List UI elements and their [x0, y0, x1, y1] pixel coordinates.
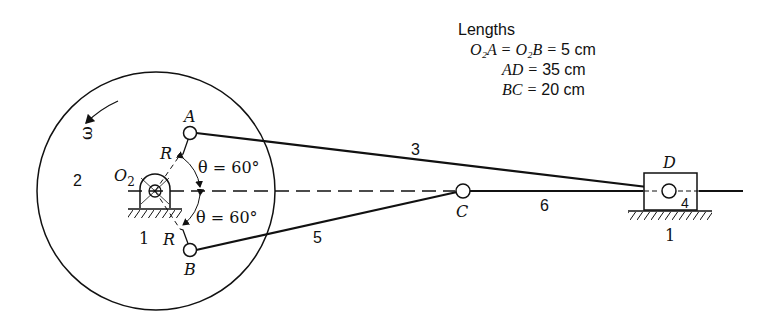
- pin-b: [184, 244, 197, 257]
- ground-right-label: 1: [665, 226, 675, 245]
- legend-row-unit: cm: [560, 61, 586, 78]
- legend-row-unit: cm: [570, 41, 596, 58]
- o2-label: O2: [114, 166, 135, 189]
- legend-row-value: 5: [561, 41, 570, 58]
- legend-row-unit: cm: [559, 81, 585, 98]
- pin-a: [184, 127, 197, 140]
- legend-row-ad: AD = 35 cm: [458, 60, 596, 80]
- lengths-legend: Lengths O₂A = O₂B = 5 cm AD = 35 cm BC =…: [458, 20, 596, 100]
- ground-left-label: 1: [139, 229, 149, 248]
- legend-row-lhs: BC =: [502, 81, 541, 98]
- legend-title: Lengths: [458, 20, 596, 40]
- legend-row-o2a: O₂A = O₂B = 5 cm: [458, 40, 596, 60]
- link-4-label: 4: [681, 195, 689, 211]
- legend-row-lhs: AD =: [502, 61, 542, 78]
- point-d-label: D: [662, 153, 676, 172]
- link-5-label: 5: [313, 229, 322, 246]
- legend-row-lhs: O₂A = O₂B =: [470, 41, 561, 58]
- point-b-label: B: [183, 260, 196, 279]
- legend-row-bc: BC = 20 cm: [458, 80, 596, 100]
- link-3: [196, 133, 664, 189]
- link-2-label: 2: [73, 172, 82, 189]
- mechanism-diagram: ω 2 O2 1 A B R R θ = 60° θ = 60° 3 5 6 C…: [0, 0, 776, 328]
- theta-top-label: θ = 60°: [198, 158, 260, 177]
- ground-pivot-o2: [128, 174, 182, 218]
- link-3-label: 3: [411, 141, 420, 158]
- omega-arrow-icon: [86, 101, 118, 123]
- omega-label: ω: [76, 126, 96, 140]
- legend-row-value: 20: [541, 81, 559, 98]
- r-bottom-label: R: [162, 230, 175, 249]
- r-top-label: R: [159, 144, 172, 163]
- link-6-label: 6: [540, 197, 549, 214]
- pin-d: [662, 184, 676, 198]
- legend-row-value: 35: [542, 61, 560, 78]
- pin-c: [456, 184, 470, 198]
- theta-bottom-label: θ = 60°: [196, 208, 258, 227]
- point-a-label: A: [182, 107, 196, 126]
- point-c-label: C: [456, 202, 468, 221]
